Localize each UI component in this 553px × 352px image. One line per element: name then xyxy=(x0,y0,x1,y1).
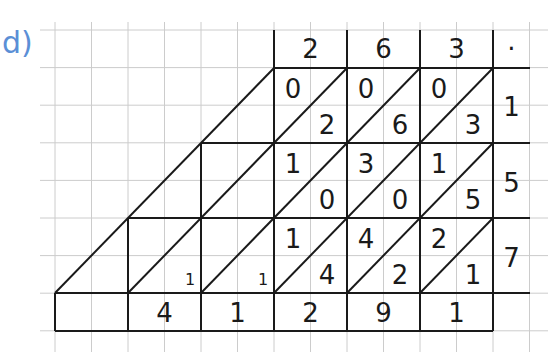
multiplier-digit: 1 xyxy=(493,94,530,120)
multiplicand-digit: 6 xyxy=(347,36,420,62)
problem-label: d) xyxy=(2,28,33,58)
lattice-ones: 6 xyxy=(385,112,415,138)
lattice-tens: 0 xyxy=(351,76,381,102)
lattice-ones: 3 xyxy=(458,112,488,138)
lattice-tens: 4 xyxy=(351,226,381,252)
multiplicand-digit: 3 xyxy=(420,36,493,62)
lattice-ones: 0 xyxy=(312,187,342,213)
lattice-tens: 3 xyxy=(351,151,381,177)
lattice-tens: 1 xyxy=(278,226,308,252)
lattice-ones: 0 xyxy=(385,187,415,213)
carry-digit: 1 xyxy=(182,272,198,288)
multiplicand-digit: 2 xyxy=(274,36,347,62)
lattice-tens: 0 xyxy=(278,76,308,102)
lattice-ones: 2 xyxy=(312,112,342,138)
result-digit: 1 xyxy=(201,300,274,326)
end-mark: · xyxy=(493,36,530,62)
result-digit: 4 xyxy=(128,300,201,326)
lattice-ones: 1 xyxy=(458,262,488,288)
result-digit: 9 xyxy=(347,300,420,326)
multiplier-digit: 7 xyxy=(493,245,530,271)
lattice-ones: 2 xyxy=(385,262,415,288)
multiplier-digit: 5 xyxy=(493,170,530,196)
lattice-multiplication-diagram: d) 2 6 3 · 1 5 7 0 2 0 6 0 3 1 0 3 0 1 5… xyxy=(0,0,553,352)
carry-digit: 1 xyxy=(255,272,271,288)
result-digit: 1 xyxy=(420,300,493,326)
lattice-ones: 4 xyxy=(312,262,342,288)
lattice-ones: 5 xyxy=(458,187,488,213)
result-digit: 2 xyxy=(274,300,347,326)
lattice-tens: 1 xyxy=(424,151,454,177)
lattice-tens: 1 xyxy=(278,151,308,177)
lattice-tens: 2 xyxy=(424,226,454,252)
lattice-tens: 0 xyxy=(424,76,454,102)
